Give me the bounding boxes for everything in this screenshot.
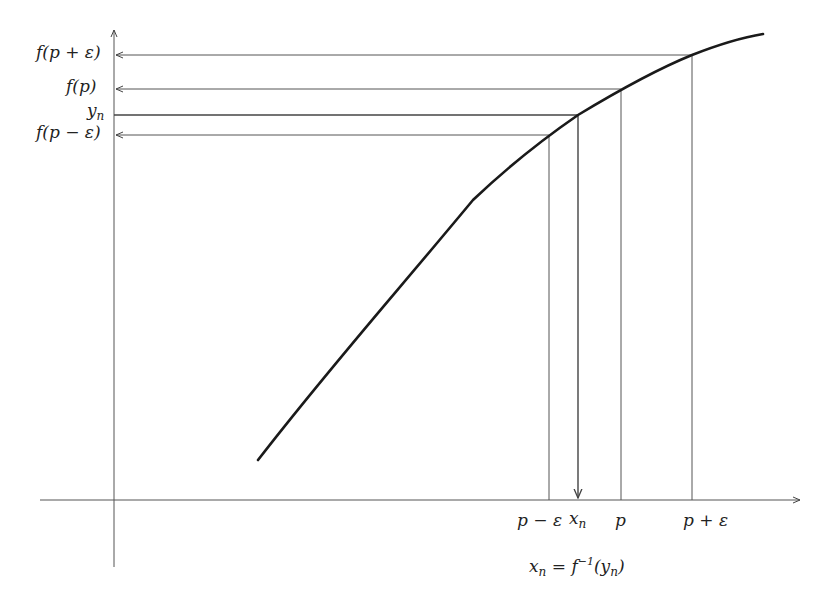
label-f-p-plus-eps: f(p + ε) xyxy=(36,42,101,62)
label-f-p: f(p) xyxy=(66,76,96,96)
label-p-plus-eps: p + ε xyxy=(683,510,728,530)
label-p: p xyxy=(615,510,626,530)
diagram-canvas xyxy=(0,0,834,598)
label-y-n: yn xyxy=(87,100,104,123)
label-x-n: xn xyxy=(569,508,586,531)
label-p-minus-eps: p − ε xyxy=(517,510,562,530)
function-curve xyxy=(258,34,763,460)
formula-inverse: xn = f−1(yn) xyxy=(529,555,625,579)
label-f-p-minus-eps: f(p − ε) xyxy=(36,122,101,142)
